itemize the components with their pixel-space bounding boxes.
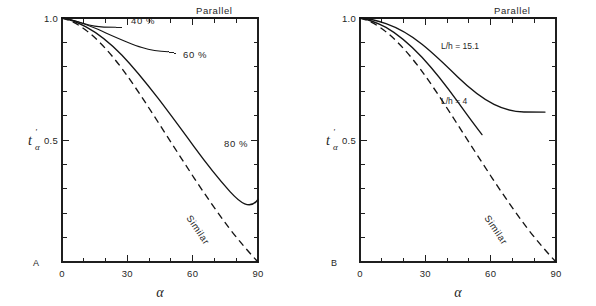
panel-a-annotation-parallel: Parallel <box>196 5 232 16</box>
panel-a-ylabel-0.5: 0.5 <box>44 135 58 146</box>
chart-panel-b: 1.0 0.5 0 30 60 90 t ' α α Parallel L/h … <box>298 0 596 306</box>
panel-b-curve-similar <box>360 18 556 262</box>
panel-b-yaxis-title-sub: α <box>333 142 338 152</box>
panel-b-curve-lh4 <box>360 18 482 135</box>
panel-a-xticks-bottom <box>62 255 258 262</box>
panel-a-curve-80pct <box>62 18 258 205</box>
panel-a-xaxis-title: α <box>156 285 164 300</box>
panel-a-svg: 1.0 0.5 0 30 60 90 t ' α α 40 % 60 % 80 … <box>0 0 298 306</box>
panel-b-yticks-right <box>549 42 556 237</box>
panel-b-xticks-bottom <box>360 255 556 262</box>
panel-b-yticks-left <box>360 18 367 238</box>
panel-b-annotation-parallel: Parallel <box>494 5 530 16</box>
panel-a-xlabel-60: 60 <box>187 268 198 279</box>
chart-panel-a: 1.0 0.5 0 30 60 90 t ' α α 40 % 60 % 80 … <box>0 0 298 306</box>
panel-b-xticks-top <box>382 18 534 25</box>
panel-a-xlabel-90: 90 <box>252 268 263 279</box>
figure-root: 1.0 0.5 0 30 60 90 t ' α α 40 % 60 % 80 … <box>0 0 596 306</box>
panel-a-yaxis-title: t <box>28 133 33 148</box>
panel-b-annotation-lh151: L/h = 15.1 <box>441 41 479 51</box>
panel-a-ylabel-1.0: 1.0 <box>44 13 58 24</box>
panel-b-xlabel-60: 60 <box>485 268 496 279</box>
panel-b-xlabel-90: 90 <box>550 268 561 279</box>
panel-a-annotation-60pct: 60 % <box>183 49 207 60</box>
panel-b-yaxis-title-prime: ' <box>333 127 336 137</box>
panel-a-xlabel-30: 30 <box>122 268 133 279</box>
panel-b-letter: B <box>331 258 337 268</box>
panel-b-ylabel-1.0: 1.0 <box>342 13 356 24</box>
panel-a-annotation-40pct: 40 % <box>131 15 155 26</box>
panel-a-leader-60pct <box>168 52 176 54</box>
panel-a-xticks-top <box>84 18 236 25</box>
panel-b-yaxis-title: t <box>326 133 331 148</box>
panel-b-xlabel-0: 0 <box>357 268 363 279</box>
panel-b-frame <box>360 18 556 262</box>
panel-b-ylabel-0.5: 0.5 <box>342 135 356 146</box>
panel-a-annotation-similar: Similar <box>184 213 212 247</box>
panel-a-letter: A <box>33 258 39 268</box>
panel-a-yaxis-title-prime: ' <box>35 127 38 137</box>
panel-a-yticks-left <box>62 18 69 238</box>
panel-b-annotation-lh4: L/h = 4 <box>441 96 468 106</box>
panel-b-svg: 1.0 0.5 0 30 60 90 t ' α α Parallel L/h … <box>298 0 596 306</box>
panel-a-yaxis-title-sub: α <box>35 142 40 152</box>
panel-b-axes <box>360 18 556 262</box>
panel-b-xaxis-title: α <box>454 285 462 300</box>
panel-b-xlabel-30: 30 <box>420 268 431 279</box>
panel-a-annotation-80pct: 80 % <box>224 138 248 149</box>
panel-a-yticks-right <box>251 42 258 237</box>
panel-b-annotation-similar: Similar <box>482 213 510 247</box>
panel-a-xlabel-0: 0 <box>59 268 65 279</box>
